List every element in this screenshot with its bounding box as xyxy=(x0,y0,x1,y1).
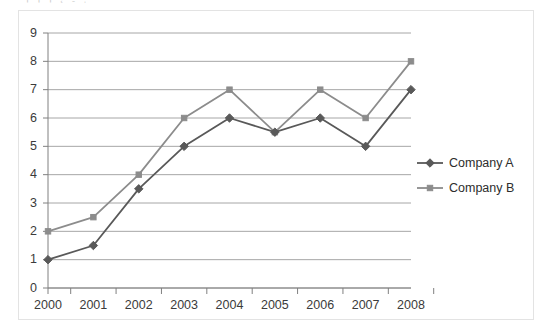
x-axis-tick-label: 2002 xyxy=(125,298,153,312)
x-axis-tick-label: 2003 xyxy=(170,298,198,312)
y-axis-tick-label: 1 xyxy=(30,252,37,266)
legend-label: Company B xyxy=(449,181,514,195)
x-axis-tick-label: 2006 xyxy=(306,298,334,312)
data-point-marker-square xyxy=(181,115,186,120)
y-axis-tick-label: 4 xyxy=(30,167,37,181)
clipped-header-text: ¡ ¡ ¡ ˛ ˍ ˌ xyxy=(0,0,539,7)
y-axis-tick-label: 9 xyxy=(30,26,37,40)
y-axis-tick-label: 2 xyxy=(30,224,37,238)
legend-item-company-a[interactable]: Company A xyxy=(417,156,514,170)
x-axis-tick-label: 2007 xyxy=(352,298,380,312)
data-point-marker-square xyxy=(136,172,141,177)
clipped-header-text-value: ¡ ¡ ¡ ˛ ˍ ˌ xyxy=(26,0,90,3)
data-point-marker-square xyxy=(45,229,50,234)
x-axis-tick-label: 2001 xyxy=(79,298,107,312)
y-axis-tick-label: 8 xyxy=(30,54,37,68)
data-point-marker-diamond xyxy=(44,255,52,263)
chart-legend: Company ACompany B xyxy=(417,156,514,195)
data-point-marker-square xyxy=(408,59,413,64)
legend-item-company-b[interactable]: Company B xyxy=(417,181,514,195)
chart-canvas: 0123456789200020012002200320042005200620… xyxy=(19,11,535,321)
data-point-marker-diamond xyxy=(316,114,324,122)
x-axis-tick-label: 2000 xyxy=(34,298,62,312)
x-axis-tick-label: 2005 xyxy=(261,298,289,312)
data-point-marker-square xyxy=(427,185,432,190)
y-axis-tick-label: 3 xyxy=(30,196,37,210)
data-point-marker-diamond xyxy=(225,114,233,122)
data-point-marker-square xyxy=(318,87,323,92)
data-point-marker-square xyxy=(91,214,96,219)
line-chart: 0123456789200020012002200320042005200620… xyxy=(19,11,535,321)
data-point-marker-diamond xyxy=(426,159,434,167)
chart-screenshot: ¡ ¡ ¡ ˛ ˍ ˌ 0123456789200020012002200320… xyxy=(0,0,539,329)
y-axis-tick-label: 7 xyxy=(30,82,37,96)
x-axis-tick-label: 2004 xyxy=(216,298,244,312)
legend-label: Company A xyxy=(449,156,514,170)
data-point-marker-square xyxy=(227,87,232,92)
y-axis-tick-label: 0 xyxy=(30,281,37,295)
x-axis-tick-label: 2008 xyxy=(397,298,425,312)
data-point-marker-square xyxy=(363,115,368,120)
y-axis-tick-label: 6 xyxy=(30,111,37,125)
y-axis-tick-label: 5 xyxy=(30,139,37,153)
chart-frame: 0123456789200020012002200320042005200620… xyxy=(18,10,534,320)
